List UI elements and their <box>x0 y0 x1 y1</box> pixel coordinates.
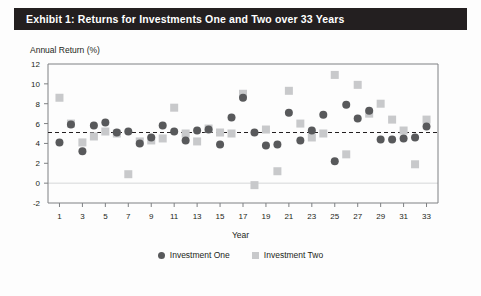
data-point-investment-two <box>216 129 224 137</box>
y-tick-label: 0 <box>36 179 41 188</box>
y-tick-label: 6 <box>36 120 41 129</box>
x-tick-label: 33 <box>422 212 431 221</box>
data-point-investment-one <box>147 133 155 141</box>
data-point-investment-one <box>342 101 350 109</box>
data-point-investment-two <box>411 160 419 168</box>
data-point-investment-two <box>78 138 86 146</box>
y-tick-label: 8 <box>36 100 41 109</box>
y-tick-label: 12 <box>31 60 40 69</box>
data-point-investment-one <box>193 127 201 135</box>
x-tick-label: 11 <box>170 212 179 221</box>
data-point-investment-one <box>319 111 327 119</box>
x-tick-label: 23 <box>307 212 316 221</box>
data-point-investment-one <box>273 140 281 148</box>
data-point-investment-one <box>239 94 247 102</box>
data-point-investment-one <box>67 121 75 129</box>
data-point-investment-one <box>400 134 408 142</box>
data-point-investment-one <box>136 139 144 147</box>
data-point-investment-one <box>55 138 63 146</box>
x-tick-label: 7 <box>126 212 131 221</box>
data-point-investment-two <box>331 71 339 79</box>
data-point-investment-two <box>273 167 281 175</box>
data-point-investment-one <box>296 136 304 144</box>
data-point-investment-one <box>205 126 213 134</box>
data-point-investment-two <box>101 128 109 136</box>
x-tick-label: 21 <box>284 212 293 221</box>
data-point-investment-two <box>193 137 201 145</box>
exhibit-container: Exhibit 1: Returns for Investments One a… <box>0 0 481 296</box>
data-point-investment-two <box>159 134 167 142</box>
x-tick-label: 31 <box>399 212 408 221</box>
x-tick-label: 9 <box>149 212 154 221</box>
x-tick-label: 13 <box>193 212 202 221</box>
y-tick-label: 10 <box>31 80 40 89</box>
data-point-investment-one <box>388 135 396 143</box>
x-tick-label: 25 <box>330 212 339 221</box>
data-point-investment-one <box>216 140 224 148</box>
x-tick-label: 17 <box>239 212 248 221</box>
data-point-investment-two <box>55 94 63 102</box>
legend-item-investment-two: Investment Two <box>252 250 323 260</box>
x-tick-label: 19 <box>261 212 270 221</box>
data-point-investment-one <box>182 136 190 144</box>
data-point-investment-two <box>250 181 258 189</box>
data-point-investment-two <box>377 100 385 108</box>
y-tick-label: -2 <box>33 199 41 208</box>
data-point-investment-two <box>90 132 98 140</box>
data-point-investment-one <box>228 114 236 122</box>
data-point-investment-two <box>285 87 293 95</box>
data-point-investment-one <box>308 127 316 135</box>
data-point-investment-two <box>319 130 327 138</box>
data-point-investment-one <box>262 141 270 149</box>
data-point-investment-one <box>411 133 419 141</box>
chart-legend: Investment One Investment Two <box>0 250 481 260</box>
data-point-investment-two <box>400 127 408 135</box>
data-point-investment-one <box>285 109 293 117</box>
data-point-investment-one <box>365 107 373 115</box>
x-tick-label: 27 <box>353 212 362 221</box>
legend-item-investment-one: Investment One <box>158 250 230 260</box>
y-tick-label: 2 <box>36 159 41 168</box>
x-tick-label: 15 <box>216 212 225 221</box>
data-point-investment-one <box>250 129 258 137</box>
data-point-investment-two <box>170 104 178 112</box>
data-point-investment-two <box>124 170 132 178</box>
x-tick-label: 5 <box>103 212 108 221</box>
data-point-investment-two <box>296 120 304 128</box>
data-point-investment-one <box>124 128 132 136</box>
data-point-investment-two <box>388 116 396 124</box>
data-point-investment-two <box>342 150 350 158</box>
data-point-investment-one <box>113 129 121 137</box>
data-point-investment-two <box>182 130 190 138</box>
data-point-investment-one <box>423 123 431 131</box>
data-point-investment-two <box>262 126 270 134</box>
data-point-investment-one <box>101 119 109 127</box>
data-point-investment-two <box>354 81 362 89</box>
data-point-investment-one <box>331 157 339 165</box>
data-point-investment-one <box>78 147 86 155</box>
data-point-investment-one <box>170 128 178 136</box>
square-marker-icon <box>252 252 259 259</box>
data-point-investment-one <box>377 135 385 143</box>
circle-marker-icon <box>158 252 165 259</box>
legend-label-investment-one: Investment One <box>170 250 230 260</box>
x-tick-label: 1 <box>57 212 62 221</box>
data-point-investment-one <box>354 115 362 123</box>
x-axis-title: Year <box>0 230 481 240</box>
x-tick-label: 3 <box>80 212 85 221</box>
data-point-investment-two <box>308 133 316 141</box>
data-point-investment-one <box>159 122 167 130</box>
x-tick-label: 29 <box>376 212 385 221</box>
data-point-investment-two <box>228 130 236 138</box>
data-point-investment-two <box>423 116 431 124</box>
data-point-investment-one <box>90 122 98 130</box>
y-tick-label: 4 <box>36 139 41 148</box>
legend-label-investment-two: Investment Two <box>264 250 323 260</box>
